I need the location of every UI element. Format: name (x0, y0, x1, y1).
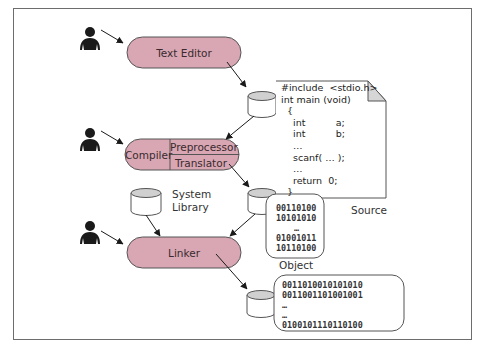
arrow-object-to-linker (230, 214, 255, 236)
object-line: 10101010 (276, 213, 316, 223)
source-storage-cylinder (248, 92, 276, 118)
object-line: 01001011 (276, 233, 316, 243)
system-library-label-line1: System (172, 189, 211, 200)
object-line: … (276, 223, 316, 233)
system-library-cylinder (131, 189, 161, 216)
arrow-library-to-linker (146, 215, 160, 236)
source-line: int b; (281, 128, 377, 140)
system-library-label-line2: Library (172, 202, 209, 213)
source-line: { (281, 105, 377, 117)
executable-line: … (282, 300, 363, 310)
object-caption: Object (279, 260, 313, 271)
source-line: int a; (281, 117, 377, 129)
executable-line: … (282, 310, 363, 320)
source-line: #include <stdio.h> (281, 82, 377, 94)
source-line: int main (void) (281, 94, 377, 106)
object-binary: 0011010010101010…0100101110110100 (276, 203, 316, 253)
text-editor-label: Text Editor (127, 47, 241, 59)
object-line: 00110100 (276, 203, 316, 213)
arrow-user-to-compiler (101, 131, 123, 144)
source-line: scanf( … ); (281, 152, 377, 164)
executable-line: 0011010010101010 (282, 280, 363, 290)
person-icon (80, 27, 100, 50)
executable-line: 0100101110110100 (282, 320, 363, 330)
preprocessor-stage-label: Preprocessor (170, 141, 232, 153)
arrow-source-to-compiler (226, 116, 254, 139)
executable-binary: 00110100101010100011001101001001……010010… (282, 280, 363, 330)
object-line: 10110100 (276, 243, 316, 253)
translator-stage-label: Translator (170, 157, 232, 169)
compiler-label: Compiler (125, 149, 171, 161)
arrow-compiler-to-object (229, 164, 249, 187)
source-line: } (281, 186, 377, 198)
source-caption: Source (351, 205, 387, 216)
linker-label: Linker (127, 247, 241, 259)
arrow-user-to-linker (101, 231, 123, 244)
executable-storage-cylinder (247, 291, 275, 318)
person-icon (80, 128, 100, 151)
source-line: return 0; (281, 175, 377, 187)
arrow-user-to-editor (101, 30, 123, 43)
source-line: … (281, 140, 377, 152)
source-code: #include <stdio.h>int main (void) { int … (281, 82, 377, 198)
executable-line: 0011001101001001 (282, 290, 363, 300)
person-icon (80, 221, 100, 244)
source-line: … (281, 163, 377, 175)
arrow-editor-to-source (227, 62, 246, 87)
